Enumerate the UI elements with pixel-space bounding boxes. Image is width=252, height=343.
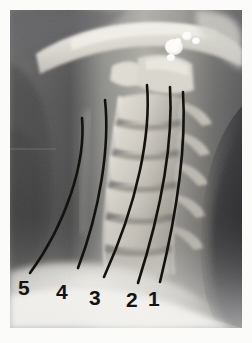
annotation-label-5: 5 — [18, 277, 30, 298]
annotation-label-3: 3 — [89, 287, 101, 308]
exposure-ramp — [10, 10, 242, 328]
radiograph-image — [10, 10, 242, 328]
annotation-label-4: 4 — [56, 281, 68, 302]
annotation-label-2: 2 — [126, 289, 138, 310]
radiograph-canvas — [10, 10, 242, 328]
annotation-label-1: 1 — [148, 288, 160, 309]
xray-figure: 5 4 3 2 1 — [0, 0, 252, 343]
